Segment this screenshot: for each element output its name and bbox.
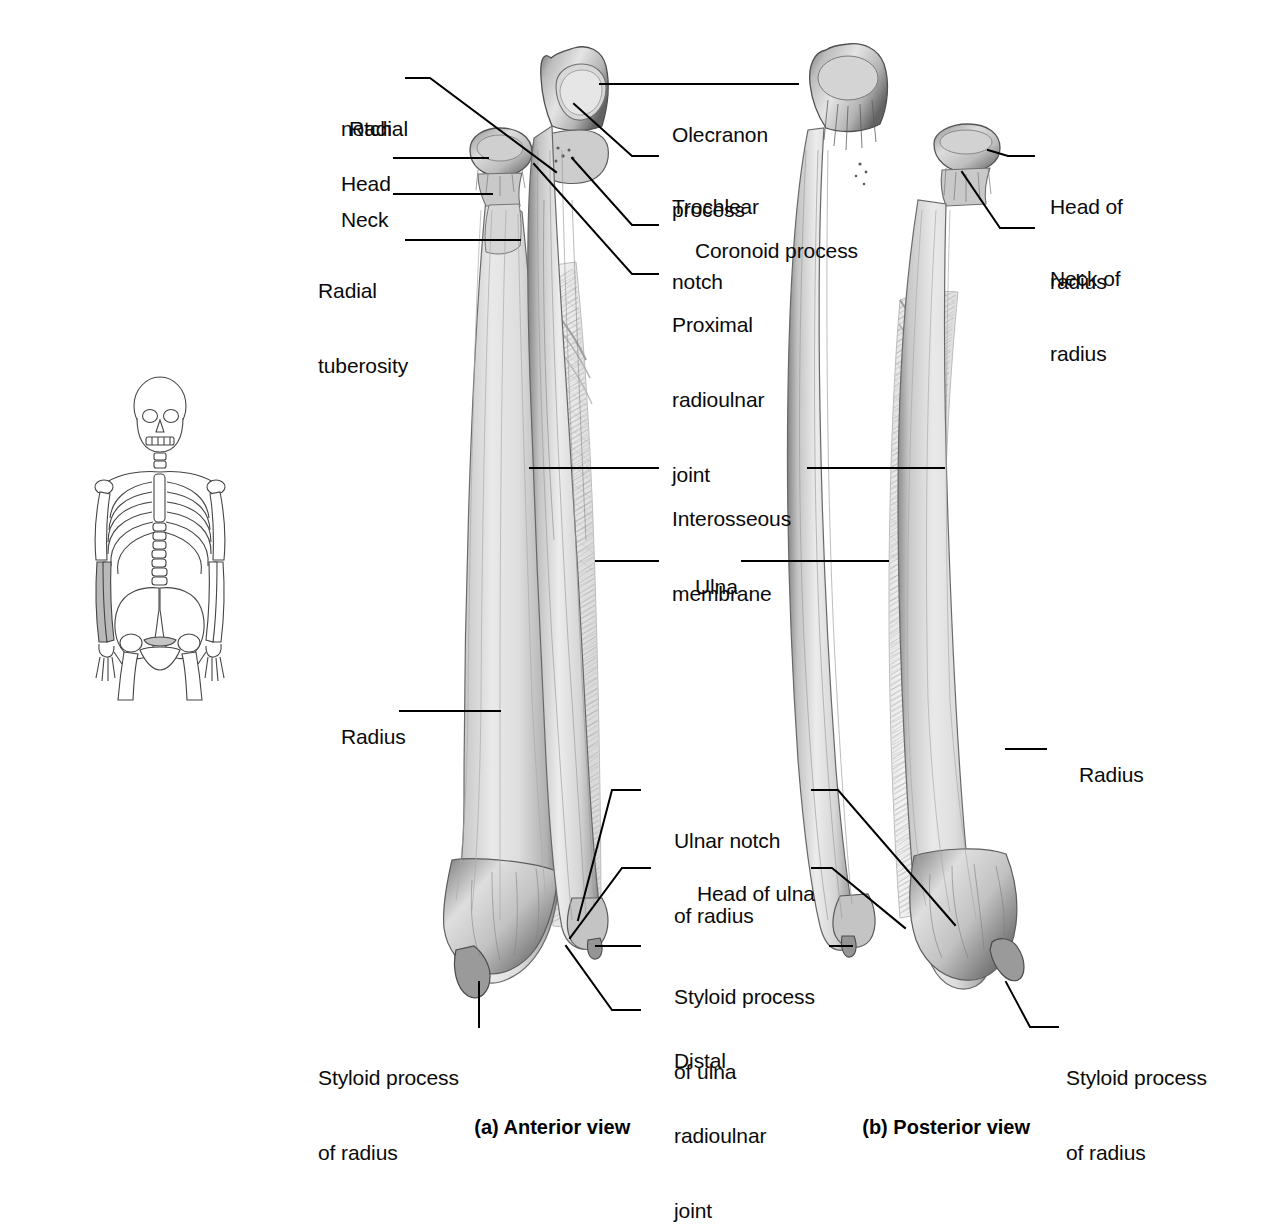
label-radius-anterior-text: Radius: [341, 725, 406, 748]
interosseous-membrane-anterior: [500, 250, 630, 950]
label-styloid-radius-posterior-line1: Styloid process: [1066, 1065, 1207, 1090]
label-radial-notch-line2: notch: [341, 117, 392, 140]
leader-trochlear-notch: [574, 104, 658, 156]
label-proximal-ruj-line1: Proximal: [672, 312, 764, 337]
leader-head-of-ulna-left: [570, 868, 650, 938]
label-head-of-ulna-text: Head of ulna: [697, 882, 815, 905]
skeleton-highlight-left-forearm: [96, 562, 114, 642]
leader-styloid-process-radius-posterior: [1006, 982, 1058, 1027]
label-styloid-radius-anterior-line2: of radius: [318, 1140, 459, 1165]
interosseous-membrane-posterior: [870, 260, 1000, 960]
leader-ulnar-notch-left: [578, 790, 640, 920]
leader-radial-notch: [406, 78, 556, 172]
label-neck-of-radius-line1: Neck of: [1050, 266, 1121, 291]
radius-bone-posterior: [898, 124, 1024, 989]
label-proximal-ruj-line2: radioulnar: [672, 387, 764, 412]
leader-proximal-radioulnar-joint: [534, 164, 658, 274]
label-distal-ruj-line1: Distal: [674, 1048, 766, 1073]
label-styloid-process-radius-anterior: Styloid process of radius: [318, 1015, 459, 1215]
caption-posterior-view: (b) Posterior view: [840, 1093, 1030, 1162]
ulna-bone-anterior: [528, 47, 608, 959]
posterior-view-bones: [787, 44, 1024, 989]
label-distal-radioulnar-joint: Distal radioulnar joint: [674, 998, 766, 1226]
leader-head-of-radius: [988, 150, 1034, 156]
label-styloid-radius-anterior-line1: Styloid process: [318, 1065, 459, 1090]
leader-coronoid-process: [572, 158, 658, 225]
label-radial-tuberosity-line2: tuberosity: [318, 353, 408, 378]
label-radius-anterior: Radius: [318, 699, 406, 774]
leader-head-of-ulna-right: [812, 868, 905, 928]
ulna-bone-posterior: [787, 44, 887, 957]
caption-anterior-view: (a) Anterior view: [452, 1093, 630, 1162]
leader-distal-radioulnar-joint: [566, 946, 640, 1010]
leader-neck-of-radius: [962, 172, 1034, 228]
label-styloid-radius-posterior-line2: of radius: [1066, 1140, 1207, 1165]
label-radial-tuberosity: Radial tuberosity: [318, 228, 408, 428]
skeleton-orientation-diagram: [95, 377, 225, 700]
label-distal-ruj-line3: joint: [674, 1198, 766, 1223]
label-distal-ruj-line2: radioulnar: [674, 1123, 766, 1148]
leader-ulnar-notch-right: [812, 790, 955, 925]
label-ulnar-notch-line1: Ulnar notch: [674, 828, 780, 853]
label-ulna: Ulna: [672, 549, 738, 624]
anterior-view-bones: [443, 47, 630, 998]
label-radius-posterior-text: Radius: [1079, 763, 1144, 786]
label-interosseous-line1: Interosseous: [672, 506, 791, 531]
label-neck-of-radius-line2: radius: [1050, 341, 1121, 366]
label-styloid-process-radius-posterior: Styloid process of radius: [1066, 1015, 1207, 1215]
caption-anterior-text: (a) Anterior view: [474, 1116, 630, 1138]
label-radius-posterior: Radius: [1056, 737, 1144, 812]
label-neck-of-radius: Neck of radius: [1050, 216, 1121, 416]
radius-bone-anterior: [443, 128, 560, 998]
label-ulna-text: Ulna: [695, 575, 738, 598]
caption-posterior-text: (b) Posterior view: [862, 1116, 1030, 1138]
label-radial-tuberosity-line1: Radial: [318, 278, 408, 303]
label-head-of-ulna: Head of ulna: [674, 856, 815, 931]
label-coronoid-text: Coronoid process: [695, 239, 858, 262]
